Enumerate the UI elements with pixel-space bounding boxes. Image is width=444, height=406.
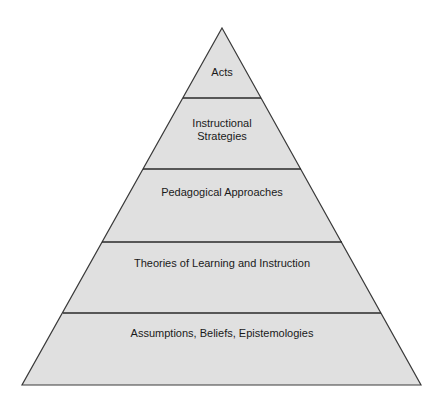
layer-pedagogical-approaches-text: Pedagogical Approaches [161, 186, 283, 198]
layer-instructional-strategies-line-1: Instructional [0, 117, 444, 130]
layer-theories-text: Theories of Learning and Instruction [134, 257, 310, 269]
layer-assumptions-label: Assumptions, Beliefs, Epistemologies [0, 327, 444, 340]
layer-acts-text: Acts [211, 66, 232, 78]
layer-instructional-strategies-label: Instructional Strategies [0, 117, 444, 143]
layer-acts-label: Acts [0, 66, 444, 79]
layer-theories-label: Theories of Learning and Instruction [0, 257, 444, 270]
layer-instructional-strategies-line-2: Strategies [0, 130, 444, 143]
pyramid-diagram [0, 0, 444, 406]
layer-assumptions-text: Assumptions, Beliefs, Epistemologies [131, 327, 314, 339]
layer-pedagogical-approaches-label: Pedagogical Approaches [0, 186, 444, 199]
